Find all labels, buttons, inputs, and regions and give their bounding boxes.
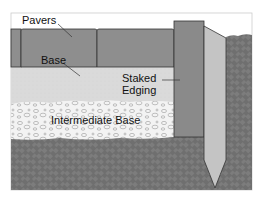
label-pavers: Pavers <box>22 15 56 26</box>
pavers-layer <box>11 29 174 67</box>
edging-vertical <box>174 21 204 137</box>
label-staked-line1: Staked <box>122 73 156 84</box>
label-base: Base <box>41 55 66 66</box>
label-intermediate-base: Intermediate Base <box>51 115 140 126</box>
label-staked-line2: Edging <box>122 85 156 96</box>
stake <box>204 26 226 188</box>
paver-edging-diagram <box>0 0 260 197</box>
soil-right <box>226 34 252 190</box>
